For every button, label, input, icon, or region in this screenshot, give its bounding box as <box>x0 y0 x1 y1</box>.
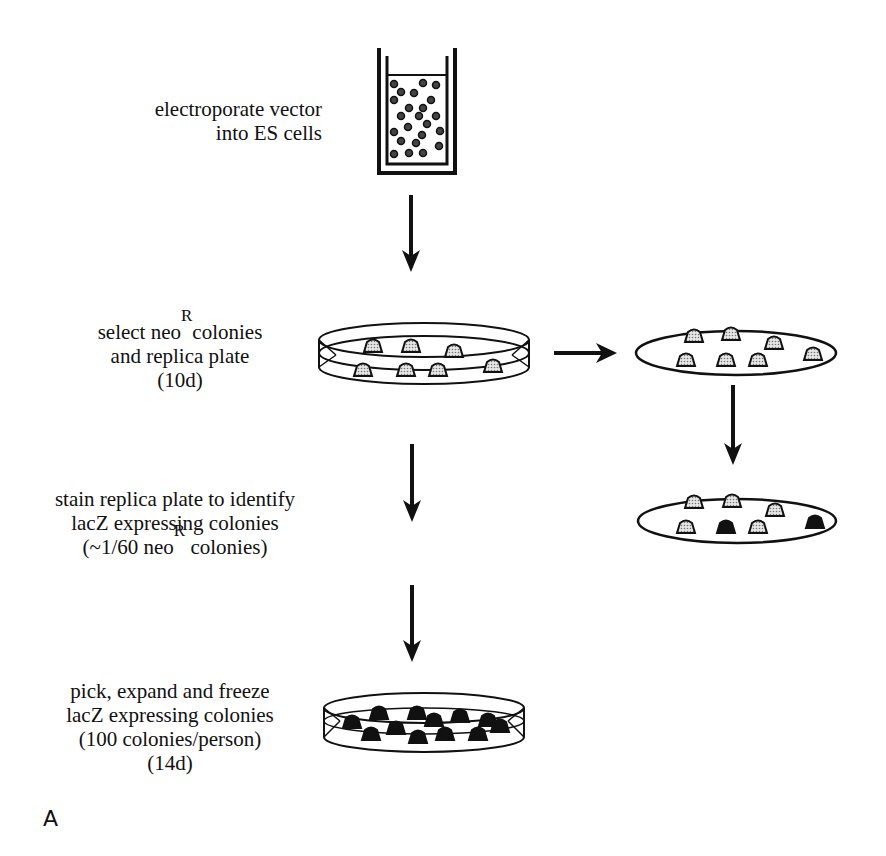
panel-label: A <box>43 806 58 831</box>
step-stain-label: stain replica plate to identify lacZ exp… <box>30 487 320 559</box>
arrow-right-icon <box>554 343 617 363</box>
diagram-root: electroporate vector into ES cells selec… <box>0 0 886 856</box>
petri-dish-lacz-colonies <box>324 693 524 752</box>
step-electroporate-label: electroporate vector into ES cells <box>112 97 322 145</box>
step-pick-label: pick, expand and freeze lacZ expressing … <box>50 679 290 775</box>
arrow-down-icon <box>403 585 421 662</box>
cuvette-icon <box>379 48 455 173</box>
replica-plate <box>636 328 836 376</box>
arrow-down-icon <box>403 444 421 522</box>
stained-replica-plate <box>638 495 836 544</box>
step-select-label: select neoRcolonies and replica plate (1… <box>70 320 290 392</box>
petri-dish-neo-colonies <box>319 323 529 384</box>
arrow-down-icon <box>724 385 742 465</box>
arrow-down-icon <box>402 195 420 272</box>
